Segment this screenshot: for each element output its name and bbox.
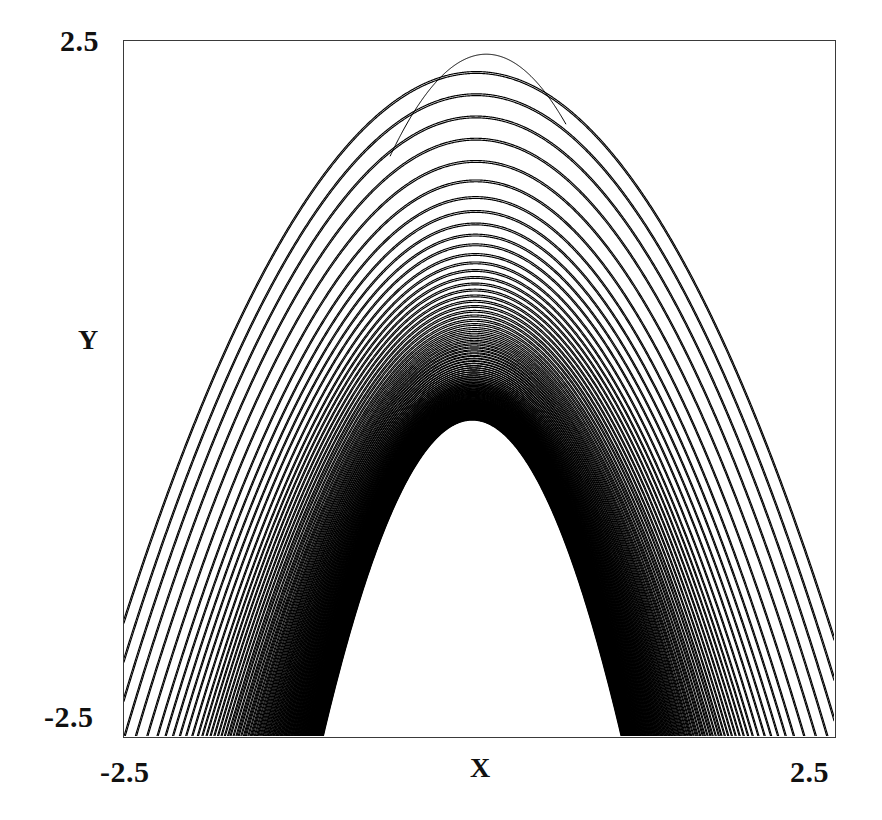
y-axis-max-tick-label: 2.5: [60, 24, 99, 58]
plot-area: [123, 40, 836, 738]
x-axis-title: X: [470, 752, 491, 784]
figure-container: 2.5 -2.5 -2.5 2.5 Y X: [0, 0, 882, 820]
y-axis-title: Y: [78, 324, 99, 356]
x-axis-min-tick-label: -2.5: [100, 755, 150, 789]
x-axis-max-tick-label: 2.5: [790, 755, 829, 789]
contour-curves-canvas: [124, 41, 834, 736]
y-axis-min-tick-label: -2.5: [44, 700, 94, 734]
